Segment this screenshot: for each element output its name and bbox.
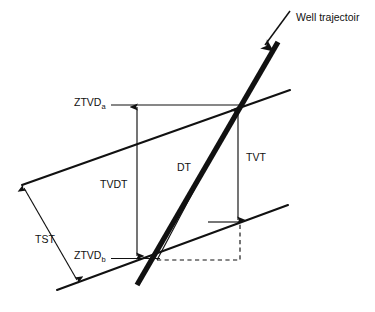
ztvd-a-label: ZTVDa bbox=[74, 97, 106, 111]
upper-bed-boundary-line bbox=[22, 90, 290, 185]
diagram-canvas bbox=[0, 0, 375, 312]
tvt-label: TVT bbox=[246, 152, 266, 163]
tst-label: TST bbox=[35, 234, 55, 245]
ztvd-b-label-text: ZTVD bbox=[74, 249, 101, 261]
lower-bed-boundary-line bbox=[57, 205, 288, 290]
well-trajectory-callout-arrow bbox=[265, 11, 290, 45]
ztvd-b-label: ZTVDb bbox=[74, 250, 106, 264]
ztvd-b-label-subscript: b bbox=[101, 255, 105, 264]
well-trajectory-label: Well trajectoir bbox=[296, 12, 359, 23]
ztvd-a-label-subscript: a bbox=[101, 102, 105, 111]
well-trajectory-line bbox=[137, 42, 278, 285]
ztvd-a-label-text: ZTVD bbox=[74, 96, 101, 108]
dt-label: DT bbox=[177, 162, 191, 173]
well-trajectory-diagram: ZTVDa ZTVDb TVDT TST DT TVT Well traject… bbox=[0, 0, 375, 312]
tvdt-label: TVDT bbox=[100, 179, 127, 190]
